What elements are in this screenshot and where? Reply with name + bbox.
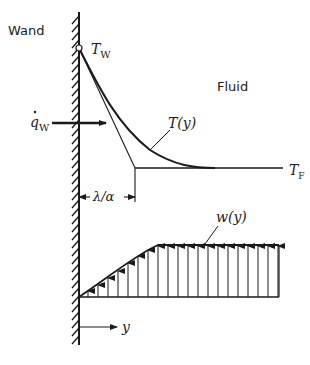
boundary-layer-diagram: Wand Fluid TW T(y) TF qW λ/α <box>0 0 310 365</box>
y-axis-label: y <box>121 319 131 335</box>
velocity-profile-label: w(y) <box>216 209 247 225</box>
fluid-temp-label: TF <box>289 162 305 181</box>
heat-flux-dot <box>34 111 36 113</box>
wall-temp-label: TW <box>91 41 111 60</box>
fluid-label: Fluid <box>217 79 248 94</box>
temp-profile-leader <box>150 130 170 150</box>
velocity-profile <box>79 226 279 297</box>
thickness-label: λ/α <box>92 189 115 204</box>
temp-profile-label: T(y) <box>168 115 196 131</box>
wall-point-icon <box>76 45 82 51</box>
wall-hatching <box>72 16 79 344</box>
wall <box>72 12 79 345</box>
wall-label: Wand <box>8 23 44 38</box>
heat-flux-label: qW <box>30 114 50 133</box>
tangent-line <box>79 48 135 168</box>
